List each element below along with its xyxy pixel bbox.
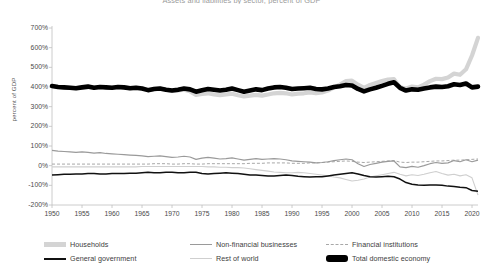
series-line-rest-of-world xyxy=(52,166,478,195)
legend-label-rest-of-world: Rest of world xyxy=(216,254,259,263)
legend-label-general-government: General government xyxy=(70,254,136,263)
legend-item-financial-institutions[interactable]: Financial institutions xyxy=(326,238,418,251)
legend-label-total-domestic-economy: Total domestic economy xyxy=(352,254,430,263)
legend-label-non-financial-businesses: Non-financial businesses xyxy=(216,240,297,249)
financial-institutions-swatch xyxy=(326,244,348,245)
nonfinancial-businesses-swatch xyxy=(190,244,212,245)
legend-item-total-domestic-economy[interactable]: Total domestic economy xyxy=(326,252,430,265)
plot-area xyxy=(0,0,483,215)
legend-label-financial-institutions: Financial institutions xyxy=(352,240,418,249)
legend-item-non-financial-businesses[interactable]: Non-financial businesses xyxy=(190,238,297,251)
chart-legend: Households General government Non-financ… xyxy=(0,238,483,272)
legend-item-general-government[interactable]: General government xyxy=(44,252,136,265)
rest-of-world-swatch xyxy=(190,258,212,259)
series-line-non-financial-businesses xyxy=(52,150,478,167)
legend-item-households[interactable]: Households xyxy=(44,238,108,251)
households-swatch xyxy=(44,242,66,247)
general-government-swatch xyxy=(44,258,66,260)
legend-label-households: Households xyxy=(70,240,108,249)
legend-item-rest-of-world[interactable]: Rest of world xyxy=(190,252,259,265)
total-domestic-economy-swatch xyxy=(326,255,348,262)
chart-container: Assets and liabilities by sector, percen… xyxy=(0,0,483,275)
